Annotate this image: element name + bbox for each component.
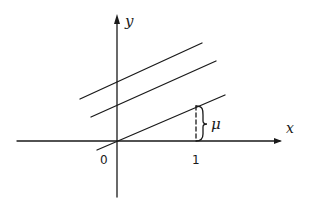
coordinate-diagram: y x 0 1 μ: [0, 0, 311, 209]
middle-line: [91, 61, 216, 117]
x-tick-label: 1: [192, 153, 200, 167]
x-axis: [17, 138, 282, 144]
mu-label: μ: [211, 115, 221, 133]
upper-line: [80, 43, 202, 99]
origin-label: 0: [100, 153, 108, 167]
lower-line: [97, 95, 225, 150]
y-axis-label: y: [124, 12, 134, 30]
y-axis-arrow-icon: [114, 14, 120, 24]
brace-icon: [196, 106, 207, 141]
x-axis-label: x: [286, 120, 294, 136]
x-axis-arrow-icon: [274, 138, 282, 144]
